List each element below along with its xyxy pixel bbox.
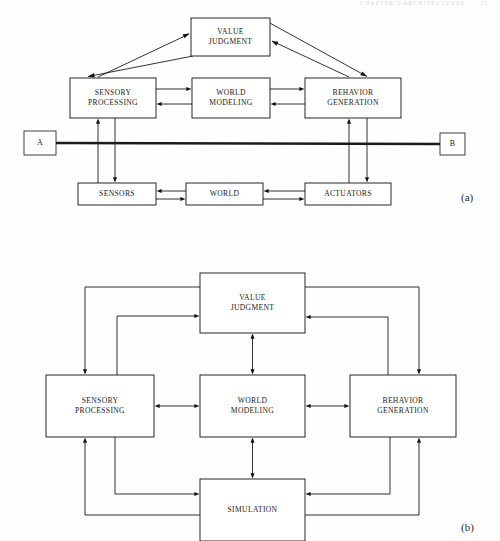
figure-a-world-modeling: WORLDMODELING	[192, 78, 270, 118]
node-label-behavior-generation: GENERATION	[327, 98, 379, 107]
arrowhead-sp-to-vj-b	[194, 314, 199, 318]
arrowhead-wm-to-sp-b	[155, 404, 160, 408]
arrowhead-vj-to-sp-b	[83, 369, 87, 374]
arrowhead-sp-to-vj	[183, 34, 190, 39]
arrowhead-sim-to-bg-b	[417, 438, 421, 443]
endpoint-label-a: A	[37, 138, 43, 147]
edge-sp-to-vj-b	[117, 316, 195, 375]
arrowhead-actuators-to-world	[264, 189, 269, 193]
node-label-simulation: SIMULATION	[228, 505, 278, 514]
arrowhead-vj-to-wm-b	[250, 369, 254, 374]
figure-a-sensory-processing: SENSORYPROCESSING	[70, 78, 156, 118]
figure-b-simulation: SIMULATION	[200, 479, 305, 541]
arrowhead-sensors-to-world	[180, 197, 185, 201]
arrowhead-sp-to-wm-b	[194, 404, 199, 408]
figure-b-behavior-generation: BEHAVIORGENERATION	[350, 375, 456, 437]
node-label-world-modeling: WORLD	[216, 88, 246, 97]
node-label-sensory-processing: SENSORY	[95, 88, 132, 97]
figure-b-caption: (b)	[461, 521, 474, 534]
edge-vj-to-sp	[88, 56, 193, 77]
arrowhead-sp-to-sensors	[113, 177, 117, 182]
edge-sp-to-vj	[98, 34, 189, 77]
figure-a-behavior-generation: BEHAVIORGENERATION	[305, 78, 401, 118]
edge-sim-to-sp-b	[85, 442, 200, 515]
endpoint-label-b: B	[450, 139, 455, 148]
arrowhead-bg-to-actuators	[365, 177, 369, 182]
figure-b-world-modeling: WORLDMODELING	[200, 375, 305, 437]
arrowhead-world-to-actuators	[299, 197, 304, 201]
edge-vj-to-sp-b	[85, 287, 200, 370]
page-number: 25	[480, 0, 488, 6]
arrowhead-world-to-sensors	[157, 189, 162, 193]
arrowhead-vj-to-bg-b	[417, 369, 421, 374]
arrowhead-bg-to-vj	[272, 41, 279, 46]
node-label-actuators: ACTUATORS	[324, 189, 372, 198]
arrowhead-sim-to-wm-b	[250, 438, 254, 443]
diagram-canvas: CHAPTER 2 ARCHITECTURES25VALUEJUDGMENTSE…	[0, 0, 500, 541]
figure-a-endpoint-b: B	[440, 133, 465, 155]
figure-a-actuators: ACTUATORS	[305, 183, 391, 205]
node-label-behavior-generation: BEHAVIOR	[382, 396, 424, 405]
node-label-world: WORLD	[210, 189, 240, 198]
figure-b-value-judgment: VALUEJUDGMENT	[200, 273, 305, 333]
node-label-world-modeling: WORLD	[238, 396, 268, 405]
node-label-value-judgment: JUDGMENT	[209, 37, 253, 46]
figure-a-world: WORLD	[186, 183, 263, 205]
arrowhead-sp-to-wm	[186, 87, 191, 91]
arrowhead-wm-to-sim-b	[250, 473, 254, 478]
node-label-value-judgment: VALUE	[217, 27, 244, 36]
figure-a-endpoint-a: A	[24, 131, 56, 155]
figure-a-value-judgment: VALUEJUDGMENT	[191, 18, 270, 56]
arrowhead-sensors-to-sp	[96, 119, 100, 124]
edge-sim-to-bg-b	[305, 442, 419, 515]
arrowhead-vj-to-sp	[88, 73, 95, 77]
node-label-sensory-processing: PROCESSING	[88, 98, 138, 107]
node-label-sensory-processing: PROCESSING	[75, 406, 125, 415]
figure-page: CHAPTER 2 ARCHITECTURES25VALUEJUDGMENTSE…	[0, 0, 500, 541]
node-label-world-modeling: MODELING	[209, 98, 252, 107]
bus-line-a-b	[56, 143, 440, 144]
edge-sp-to-sim-b	[115, 437, 195, 494]
running-header: CHAPTER 2 ARCHITECTURES	[360, 0, 465, 6]
figure-a-caption: (a)	[461, 191, 474, 204]
node-label-behavior-generation: BEHAVIOR	[332, 88, 374, 97]
node-label-sensors: SENSORS	[99, 189, 135, 198]
arrowhead-sim-to-sp-b	[83, 438, 87, 443]
node-label-value-judgment: JUDGMENT	[231, 303, 275, 312]
arrowhead-vj-to-bg	[360, 71, 367, 76]
arrowhead-bg-to-sim-b	[306, 492, 311, 496]
arrowhead-bg-to-wm	[271, 102, 276, 106]
node-label-sensory-processing: SENSORY	[82, 396, 119, 405]
arrowhead-sp-to-sim-b	[194, 492, 199, 496]
node-label-world-modeling: MODELING	[231, 406, 274, 415]
arrowhead-actuators-to-bg	[347, 119, 351, 124]
arrowhead-bg-to-wm-b	[306, 404, 311, 408]
edge-bg-to-vj-b	[310, 317, 388, 375]
arrowhead-wm-to-bg	[299, 87, 304, 91]
node-label-behavior-generation: GENERATION	[377, 406, 429, 415]
edge-bg-to-sim-b	[310, 437, 390, 494]
arrowhead-wm-to-vj-b	[250, 334, 254, 339]
edge-vj-to-bg	[268, 22, 367, 77]
node-label-value-judgment: VALUE	[239, 293, 266, 302]
arrowhead-wm-to-bg-b	[344, 404, 349, 408]
edge-bg-to-vj	[272, 41, 349, 77]
edge-vj-to-bg-b	[305, 287, 419, 370]
arrowhead-wm-to-sp	[157, 102, 162, 106]
figure-a-sensors: SENSORS	[78, 183, 156, 205]
arrowhead-bg-to-vj-b	[306, 315, 311, 319]
figure-b-sensory-processing: SENSORYPROCESSING	[46, 375, 154, 437]
